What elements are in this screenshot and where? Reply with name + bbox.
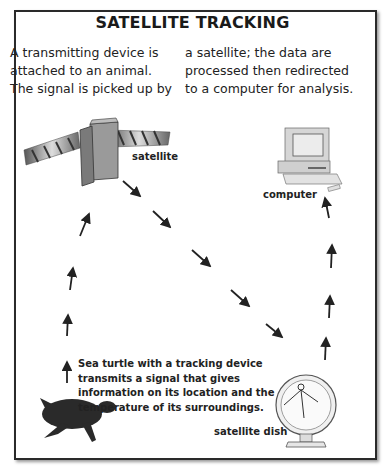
computer-icon [278, 128, 342, 191]
satellite-dish-label: satellite dish [214, 426, 287, 437]
relay-arrows [325, 198, 332, 360]
computer-label: computer [263, 189, 317, 200]
turtle-caption: Sea turtle with a tracking device transm… [78, 357, 308, 415]
downlink-arrows [123, 181, 282, 337]
satellite-label: satellite [132, 151, 178, 162]
